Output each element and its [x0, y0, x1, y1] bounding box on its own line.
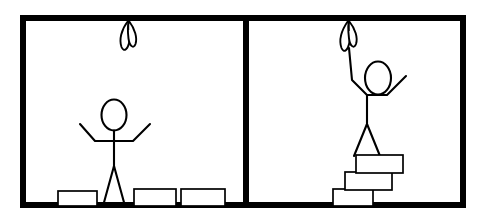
floor-box	[134, 189, 176, 206]
stack-box-middle	[345, 172, 392, 190]
stack-box-top	[356, 155, 403, 173]
floor-box	[58, 191, 97, 206]
comic-stage: Two-panel stick figure comic: unreachabl…	[0, 0, 484, 223]
stack-box-bottom	[333, 189, 373, 206]
floor-box	[181, 189, 225, 206]
comic-illustration	[0, 0, 484, 223]
figure-head	[365, 62, 391, 95]
figure-head	[102, 100, 127, 131]
canvas-background	[0, 0, 484, 223]
floor-boxes-left	[58, 189, 225, 206]
